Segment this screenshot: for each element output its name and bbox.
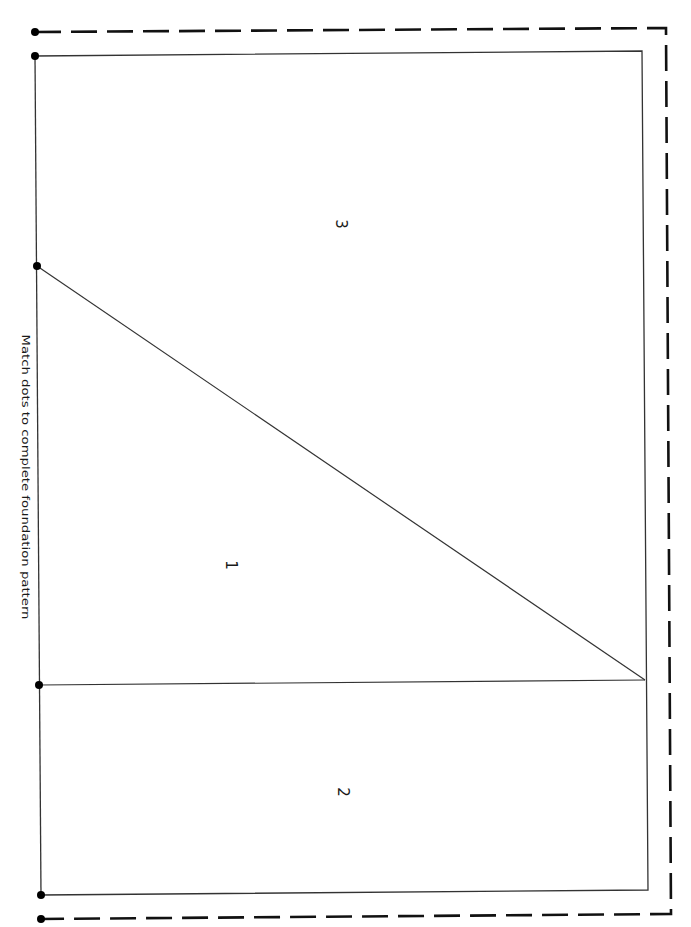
match-dots-instruction: Match dots to complete foundation patter… [19, 335, 32, 620]
section-label-2: 2 [334, 787, 352, 797]
seam-allowance-dashed-border [35, 28, 671, 919]
section-label-1: 1 [222, 560, 240, 570]
horizontal-seam-line [39, 680, 645, 685]
section-label-3: 3 [332, 219, 350, 229]
foundation-pattern-diagram: 3 1 2 Match dots to complete foundation … [0, 0, 691, 927]
match-dot [31, 28, 39, 36]
left-edge [35, 56, 41, 895]
match-dot [37, 915, 45, 923]
match-dot [35, 681, 43, 689]
match-dot [37, 891, 45, 899]
diagonal-seam-line [37, 266, 645, 680]
match-dot [33, 262, 41, 270]
match-dot [31, 52, 39, 60]
